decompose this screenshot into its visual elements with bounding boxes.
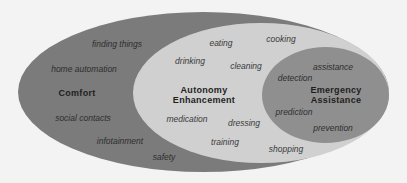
item-assistance: assistance: [313, 62, 353, 72]
emergency-assistance-title: Emergency Assistance: [310, 85, 361, 105]
item-prevention: prevention: [313, 123, 353, 133]
autonomy-title-line2: Enhancement: [173, 95, 235, 105]
item-shopping: shopping: [269, 144, 304, 154]
autonomy-title-line1: Autonomy: [173, 85, 235, 95]
item-training: training: [211, 137, 239, 147]
item-safety: safety: [153, 152, 176, 162]
item-drinking: drinking: [175, 56, 205, 66]
item-medication: medication: [166, 114, 207, 124]
emergency-title-line1: Emergency: [310, 85, 361, 95]
item-cleaning: cleaning: [230, 61, 262, 71]
item-infotainment: infotainment: [97, 136, 143, 146]
emergency-title-line2: Assistance: [310, 95, 361, 105]
item-detection: detection: [278, 73, 313, 83]
item-dressing: dressing: [228, 118, 260, 128]
item-eating: eating: [209, 38, 232, 48]
item-home-automation: home automation: [51, 64, 117, 74]
comfort-title: Comfort: [58, 88, 95, 98]
item-social-contacts: social contacts: [55, 113, 111, 123]
item-cooking: cooking: [266, 34, 295, 44]
item-prediction: prediction: [276, 107, 313, 117]
item-finding-things: finding things: [92, 39, 142, 49]
autonomy-enhancement-title: Autonomy Enhancement: [173, 85, 235, 105]
